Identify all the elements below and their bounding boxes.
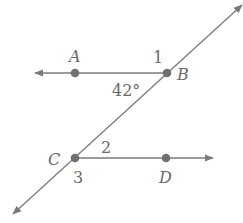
point-a	[71, 69, 80, 78]
angle-measure-label: 42°	[112, 81, 140, 100]
geometry-diagram: A B C D 1 42° 2 3	[0, 0, 243, 223]
angle-1-label: 1	[153, 48, 163, 67]
label-c: C	[48, 150, 60, 169]
point-b	[163, 69, 172, 78]
transversal-line	[13, 5, 242, 214]
angle-2-label: 2	[101, 138, 111, 157]
label-b: B	[176, 65, 189, 84]
label-a: A	[67, 47, 81, 66]
label-d: D	[158, 168, 172, 187]
point-c	[71, 154, 80, 163]
angle-3-label: 3	[73, 168, 83, 187]
point-d	[162, 154, 171, 163]
